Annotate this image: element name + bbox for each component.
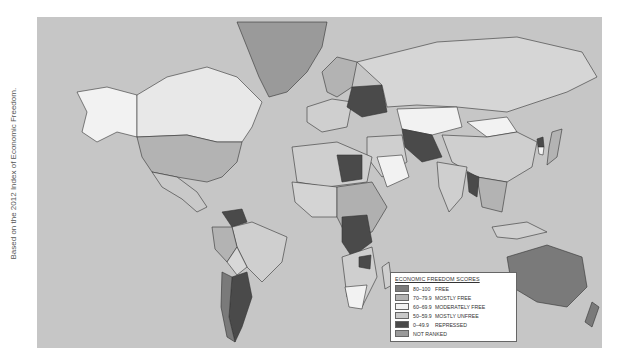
legend-swatch [395,321,409,328]
source-credit: Based on the 2012 Index of Economic Free… [9,110,18,260]
alaska [77,87,137,142]
new-zealand [585,302,599,327]
legend-label: MODERATELY FREE [435,304,485,310]
legend-range: 80–100 [413,286,435,292]
legend-range: 0–49.9 [413,322,435,328]
legend-item-repressed: 0–49.9 REPRESSED [395,320,512,329]
russia [357,37,597,112]
legend-range: 70–79.9 [413,295,435,301]
legend-swatch [395,303,409,310]
legend-range: 60–69.9 [413,304,435,310]
legend-label: REPRESSED [435,322,467,328]
eastern-europe [347,85,387,117]
zimbabwe [359,255,371,269]
southeast-asia [477,177,507,212]
legend-item-not-ranked: NOT RANKED [395,329,512,338]
india [437,162,467,212]
legend-swatch [395,312,409,319]
legend-swatch [395,330,409,337]
legend-item-mostly-free: 70–79.9 MOSTLY FREE [395,293,512,302]
world-map [37,17,602,348]
legend-label: MOSTLY FREE [435,295,471,301]
legend-item-moderately-free: 60–69.9 MODERATELY FREE [395,302,512,311]
indonesia [492,222,547,239]
legend-item-mostly-unfree: 50–59.9 MOSTLY UNFREE [395,311,512,320]
canada [137,67,262,142]
australia [507,245,587,307]
legend-item-free: 80–100 FREE [395,284,512,293]
legend-label: MOSTLY UNFREE [435,313,479,319]
legend-title: ECONOMIC FREEDOM SCORES [395,276,512,282]
legend-label: NOT RANKED [413,331,447,337]
legend-range: 50–59.9 [413,313,435,319]
legend-swatch [395,294,409,301]
north-korea [537,137,544,147]
greenland [237,22,327,97]
legend-swatch [395,285,409,292]
western-europe [307,99,352,132]
usa [137,135,242,182]
south-korea [538,147,544,155]
japan [547,129,562,165]
map-canvas [37,17,602,348]
legend: ECONOMIC FREEDOM SCORES 80–100 FREE 70–7… [390,272,517,342]
legend-label: FREE [435,286,449,292]
west-africa [292,182,337,217]
south-africa [345,285,367,309]
brazil [232,222,287,282]
